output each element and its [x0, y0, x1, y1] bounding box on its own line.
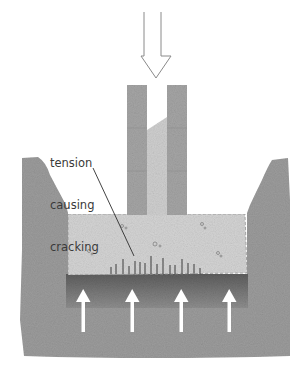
soil-pressure-zone: [66, 274, 248, 308]
annotation-line-1: tension: [50, 156, 99, 170]
cavity-wall: [127, 85, 187, 215]
annotation-line-2: causing: [50, 198, 99, 212]
annotation-label: tension causing cracking: [50, 128, 99, 268]
load-arrow-down-icon: [141, 12, 171, 78]
wall-leaf-right: [167, 85, 187, 215]
wall-infill: [147, 117, 167, 215]
foundation-diagram: [0, 0, 307, 378]
wall-leaf-left: [127, 85, 147, 215]
annotation-line-3: cracking: [50, 240, 99, 254]
